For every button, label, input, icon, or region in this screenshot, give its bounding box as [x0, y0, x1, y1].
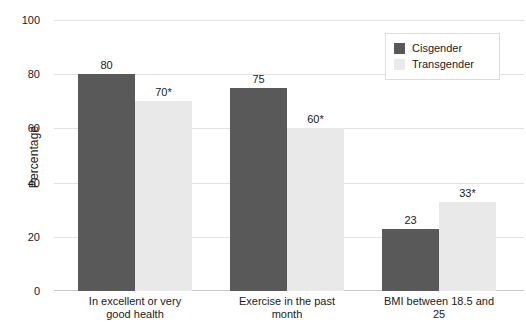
bar-transgender: [439, 202, 496, 291]
x-category-label-line: BMI between 18.5 and 25: [382, 295, 496, 321]
x-category-label-line: In excellent or very: [78, 295, 192, 308]
legend-item-cisgender: Cisgender: [394, 40, 491, 56]
legend-label-cisgender: Cisgender: [412, 42, 462, 54]
x-category-label: Exercise in the past month: [230, 295, 344, 321]
x-category-label-line: Exercise in the past month: [230, 295, 344, 321]
y-tick-label: 40: [0, 177, 40, 189]
y-tick-label: 80: [0, 68, 40, 80]
cropped-title: [0, 0, 526, 8]
bar-cisgender: [78, 74, 135, 291]
bar-group: 7560*: [230, 20, 344, 291]
legend-label-transgender: Transgender: [412, 58, 474, 70]
x-category-label-line: good health: [78, 308, 192, 321]
bar-transgender: [135, 101, 192, 291]
legend-swatch-icon-transgender: [394, 59, 405, 70]
bar-chart-figure: Percentage 020406080100 8070*7560*2333* …: [0, 0, 526, 336]
bar-transgender: [287, 128, 344, 291]
chart-legend: Cisgender Transgender: [385, 33, 500, 80]
bar-value-label: 75: [230, 73, 287, 85]
y-tick-label: 60: [0, 122, 40, 134]
y-axis-ticks: 020406080100: [0, 20, 48, 291]
bar-group: 8070*: [78, 20, 192, 291]
x-category-label: BMI between 18.5 and 25: [382, 295, 496, 321]
bar-value-label: 80: [78, 59, 135, 71]
legend-swatch-icon-cisgender: [394, 43, 405, 54]
bar-cisgender: [230, 88, 287, 291]
legend-item-transgender: Transgender: [394, 56, 491, 72]
y-tick-label: 0: [0, 285, 40, 297]
bar-value-label: 33*: [439, 187, 496, 199]
x-category-label: In excellent or verygood health: [78, 295, 192, 321]
y-tick-label: 100: [0, 14, 40, 26]
bar-value-label: 60*: [287, 113, 344, 125]
bar-value-label: 23: [382, 214, 439, 226]
x-axis-labels: In excellent or verygood healthExercise …: [54, 295, 524, 336]
y-tick-label: 20: [0, 231, 40, 243]
bar-cisgender: [382, 229, 439, 291]
bar-value-label: 70*: [135, 86, 192, 98]
